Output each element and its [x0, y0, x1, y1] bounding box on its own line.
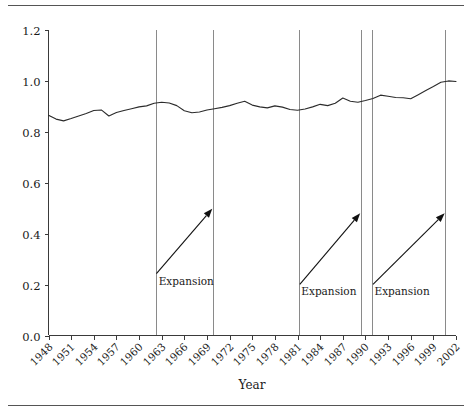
x-axis-title: Year — [238, 378, 266, 392]
expansion-arrow-line-2 — [373, 220, 438, 285]
x-tick-label-17: 1999 — [412, 340, 439, 367]
line-chart: 0.00.20.40.60.81.01.2 194819511954195719… — [0, 0, 472, 412]
y-tick-label-0: 0.0 — [22, 330, 40, 344]
x-tick-label-15: 1993 — [367, 340, 394, 367]
x-tick-label-6: 1966 — [163, 340, 191, 368]
expansion-arrow-line-1 — [300, 220, 355, 284]
y-ticks-group: 0.00.20.40.60.81.01.2 — [22, 24, 48, 344]
x-tick-label-11: 1981 — [277, 340, 304, 367]
x-tick-label-7: 1969 — [186, 340, 213, 367]
data-series-line — [49, 81, 457, 121]
x-tick-label-13: 1987 — [322, 340, 349, 367]
x-tick-label-0: 1948 — [28, 340, 55, 367]
x-tick-label-5: 1963 — [141, 340, 168, 367]
x-tick-label-9: 1975 — [231, 340, 258, 367]
x-tick-label-3: 1957 — [95, 340, 122, 367]
expansion-label-2: Expansion — [375, 285, 430, 297]
expansion-arrow-line-0 — [156, 216, 206, 274]
x-tick-label-18: 2002 — [435, 340, 462, 367]
y-tick-label-3: 0.6 — [22, 177, 40, 191]
x-tick-label-2: 1954 — [73, 340, 101, 368]
x-ticks-group: 1948195119541957196019631966196919721975… — [28, 336, 462, 368]
y-tick-label-6: 1.2 — [22, 24, 40, 38]
figure-container: 0.00.20.40.60.81.01.2 194819511954195719… — [0, 0, 472, 412]
x-tick-label-1: 1951 — [50, 340, 77, 367]
y-tick-label-4: 0.8 — [22, 126, 40, 140]
y-tick-label-1: 0.2 — [22, 279, 40, 293]
expansion-annotations-group: ExpansionExpansionExpansion — [156, 209, 444, 298]
x-tick-label-12: 1984 — [299, 340, 327, 368]
y-tick-label-5: 1.0 — [22, 75, 40, 89]
x-tick-label-10: 1978 — [254, 340, 281, 367]
expansion-label-1: Expansion — [301, 285, 356, 297]
x-tick-label-8: 1972 — [209, 340, 236, 367]
x-tick-label-4: 1960 — [118, 340, 145, 367]
y-tick-label-2: 0.4 — [22, 228, 40, 242]
expansion-label-0: Expansion — [159, 275, 214, 287]
x-tick-label-14: 1990 — [344, 340, 371, 367]
x-tick-label-16: 1996 — [390, 340, 418, 368]
